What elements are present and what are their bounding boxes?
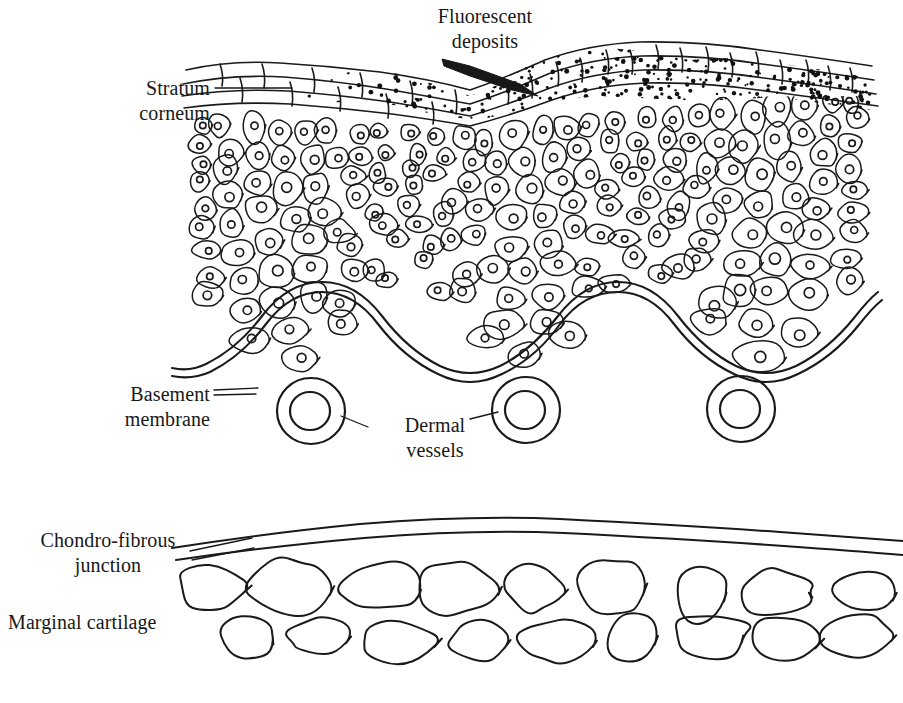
cell-nucleus — [850, 186, 856, 192]
fluorescent-deposit-dot — [827, 103, 831, 107]
fluorescent-deposit-dot — [853, 89, 858, 94]
cell-nucleus — [228, 221, 235, 228]
fluorescent-deposit-dot — [832, 49, 836, 53]
fluorescent-deposit-dot — [530, 76, 533, 79]
cell-nucleus — [207, 273, 213, 279]
fluorescent-deposit-dot — [625, 69, 629, 73]
fluorescent-deposit-dot — [617, 46, 621, 50]
fluorescent-deposit-dot — [846, 45, 850, 49]
fluorescent-deposit-dot — [866, 101, 871, 106]
fluorescent-deposit-dot — [866, 70, 870, 74]
fluorescent-deposit-dot — [482, 60, 486, 64]
fluorescent-deposit-dot — [744, 84, 746, 86]
cell-nucleus — [735, 284, 746, 295]
cell-nucleus — [458, 287, 466, 295]
cartilage-lacuna — [577, 560, 647, 614]
cell-nucleus — [703, 167, 710, 174]
epidermal-cell — [308, 197, 343, 225]
cell-nucleus — [420, 255, 426, 261]
epidermal-cell — [508, 258, 538, 284]
fluorescent-deposit-dot — [487, 116, 490, 119]
fluorescent-deposit-dot — [694, 50, 698, 54]
fluorescent-deposit-dot — [575, 102, 578, 105]
epidermal-cell — [627, 208, 650, 224]
cell-nucleus — [255, 152, 263, 160]
fluorescent-deposit-dot — [671, 47, 674, 50]
cell-nucleus — [463, 270, 471, 278]
fluorescent-deposit-dot — [738, 49, 742, 53]
fluorescent-deposit-dot — [648, 43, 652, 47]
fluorescent-deposit-dot — [861, 91, 864, 94]
cell-nucleus — [565, 331, 574, 340]
fluorescent-deposit-dot — [380, 93, 384, 97]
fluorescent-deposit-dot — [392, 103, 396, 107]
fluorescent-deposit-dot — [845, 76, 850, 81]
cell-nucleus — [374, 130, 380, 136]
fluorescent-deposit-dot — [522, 93, 526, 97]
epidermal-cell — [567, 137, 591, 160]
fluorescent-deposit-dot — [614, 58, 616, 60]
fluorescent-deposit-dot — [858, 67, 860, 69]
fluorescent-deposit-dot — [820, 109, 823, 112]
epidermal-cell — [724, 251, 764, 276]
fluorescent-deposit-dot — [820, 64, 822, 66]
cell-nucleus — [307, 262, 315, 270]
cell-nucleus — [335, 299, 343, 307]
fluorescent-deposit-dot — [539, 97, 542, 100]
cell-nucleus — [442, 156, 448, 162]
fluorescent-deposit-dot — [727, 115, 731, 119]
epidermal-cell — [739, 309, 774, 338]
fluorescent-deposit-dot — [821, 45, 825, 49]
cell-nucleus — [795, 330, 805, 340]
fluorescent-deposit-dot — [730, 60, 733, 63]
fluorescent-deposit-dot — [863, 56, 868, 61]
epidermal-cell — [475, 130, 493, 156]
fluorescent-deposit-dot — [819, 79, 823, 83]
cell-nucleus — [301, 128, 308, 135]
cell-nucleus — [500, 320, 510, 330]
cell-nucleus — [769, 253, 780, 264]
cell-nucleus — [382, 152, 388, 158]
fluorescent-deposit-dot — [779, 86, 784, 91]
cell-nucleus — [616, 162, 622, 168]
fluorescent-deposit-dot — [794, 100, 798, 104]
fluorescent-deposit-dot — [683, 98, 685, 100]
epidermal-cell — [272, 145, 296, 170]
cell-nucleus — [752, 320, 762, 330]
dermal-vessel — [707, 376, 775, 442]
fluorescent-deposit-dot — [566, 106, 570, 110]
cell-nucleus — [550, 154, 558, 162]
fluorescent-deposit-dot — [816, 90, 821, 95]
cell-nucleus — [508, 129, 516, 137]
fluorescent-deposit-dot — [771, 55, 775, 59]
epidermal-cell — [680, 133, 702, 151]
cartilage-lacuna — [678, 567, 727, 624]
cell-nucleus — [643, 192, 650, 199]
cell-nucleus — [654, 231, 661, 238]
dermal-vessel — [492, 377, 560, 443]
fluorescent-deposit-dot — [610, 66, 613, 69]
epidermal-cell — [246, 142, 270, 169]
fluorescent-deposit-dot — [606, 83, 609, 86]
fluorescent-deposit-dot — [543, 61, 546, 64]
cell-nucleus — [663, 177, 671, 185]
fluorescent-deposit-dot — [453, 58, 455, 60]
fluorescent-deposit-dot — [608, 68, 611, 71]
fluorescent-deposit-dot — [698, 119, 700, 121]
fluorescent-deposit-dot — [795, 99, 798, 102]
cell-nucleus — [583, 122, 590, 129]
fluorescent-deposit-dot — [419, 98, 422, 101]
cell-nucleus — [738, 141, 748, 151]
epidermal-cell — [732, 218, 767, 248]
fluorescent-deposit-dot — [336, 119, 339, 122]
fluorescent-deposit-dot — [773, 74, 776, 77]
cartilage-lacuna — [820, 614, 897, 657]
fluorescent-deposit-dot — [802, 104, 804, 106]
fluorescent-deposit-dot — [820, 84, 822, 86]
fluorescent-deposit-dot — [325, 111, 330, 116]
fluorescent-deposit-dot — [508, 63, 511, 66]
epidermal-cell — [410, 143, 427, 165]
fluorescent-deposit-dot — [535, 81, 539, 85]
fluorescent-deposit-dot — [790, 118, 792, 120]
epidermal-cell — [601, 129, 619, 152]
